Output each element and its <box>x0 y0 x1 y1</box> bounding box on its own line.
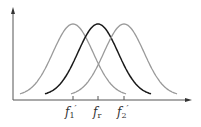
left-curve <box>20 24 126 94</box>
resonance-diagram: f1′ fr f2′ <box>0 0 201 127</box>
label-f1-prime: f1′ <box>64 104 77 120</box>
x-axis-arrow <box>185 98 192 102</box>
label-fr: fr <box>92 105 101 120</box>
y-axis-arrow <box>11 7 15 14</box>
label-f2-prime: f2′ <box>116 104 129 120</box>
